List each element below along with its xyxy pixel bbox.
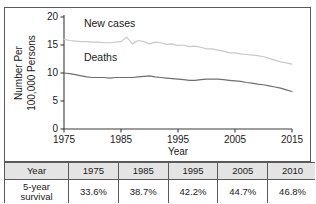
y-axis-label-line1: Number Per: [13, 45, 24, 100]
table-header-cell-year: Year: [5, 163, 69, 180]
table-row-label: 5-year survival: [5, 180, 69, 204]
line-chart: 0510152019751985199520052015YearNumber P…: [5, 8, 310, 161]
table-header-row: Year 1975 1985 1995 2005 2010: [5, 163, 316, 180]
y-tick-label-5: 5: [52, 95, 58, 106]
x-tick-label-1985: 1985: [110, 134, 133, 145]
y-axis-label-line2: 100,000 Persons: [26, 35, 37, 111]
x-tick-label-2015: 2015: [281, 134, 304, 145]
table-cell-survival-1975: 33.6%: [69, 180, 119, 204]
table-cell-survival-1985: 38.7%: [118, 180, 168, 204]
table-cell-survival-2010: 46.8%: [268, 180, 315, 204]
table-header-cell-1995: 1995: [168, 163, 218, 180]
series-label-new-cases: New cases: [84, 17, 135, 29]
row-label-line2: survival: [5, 192, 68, 202]
table-cell-survival-2005: 44.7%: [218, 180, 268, 204]
x-axis-label: Year: [168, 146, 189, 157]
table-header-cell-1975: 1975: [69, 163, 119, 180]
chart-panel: 0510152019751985199520052015YearNumber P…: [4, 7, 311, 162]
table-row: 5-year survival 33.6% 38.7% 42.2% 44.7% …: [5, 180, 316, 204]
y-tick-label-10: 10: [47, 67, 59, 78]
table-cell-survival-1995: 42.2%: [168, 180, 218, 204]
x-tick-label-2005: 2005: [224, 134, 247, 145]
table-header-cell-2010: 2010: [268, 163, 315, 180]
y-tick-label-20: 20: [47, 11, 59, 22]
cropped-title-artifact: [0, 0, 315, 7]
series-label-deaths: Deaths: [84, 51, 117, 63]
x-tick-label-1975: 1975: [53, 134, 76, 145]
y-tick-label-0: 0: [52, 123, 58, 134]
x-tick-label-1995: 1995: [167, 134, 190, 145]
series-line-deaths: [64, 73, 292, 91]
y-tick-label-15: 15: [47, 39, 59, 50]
survival-table: Year 1975 1985 1995 2005 2010 5-year sur…: [4, 162, 315, 203]
table-header-cell-2005: 2005: [218, 163, 268, 180]
figure-root: 0510152019751985199520052015YearNumber P…: [0, 0, 315, 203]
table-header-cell-1985: 1985: [118, 163, 168, 180]
